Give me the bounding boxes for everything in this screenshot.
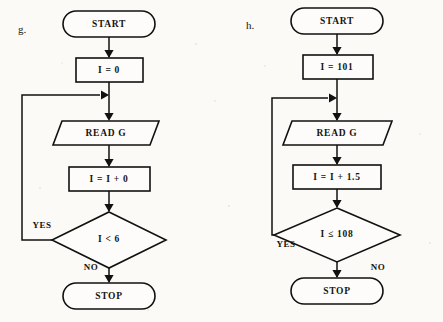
node-decision-g-label: I < 6 [98, 234, 120, 244]
node-init-g: I = 0 [76, 58, 143, 82]
edge-read-to-increment-g [104, 145, 113, 167]
node-increment-g-label: I = I + 0 [90, 174, 129, 184]
node-start-h-label: START [320, 16, 354, 26]
node-stop-g-label: STOP [95, 291, 122, 301]
edge-no-to-stop-g [104, 268, 113, 283]
chart-tag-h: h. [246, 19, 255, 31]
flowchart-canvas: g. START I = 0 [0, 0, 443, 322]
edge-start-to-init-g [104, 37, 113, 58]
edge-no-to-stop-h [332, 262, 341, 278]
node-increment-h: I = I + 1.5 [293, 165, 381, 189]
branch-label-no-h: NO [371, 262, 386, 272]
node-start-g-label: START [92, 19, 126, 29]
node-stop-g: STOP [63, 283, 155, 309]
node-init-h-label: I = 101 [320, 62, 353, 72]
node-init-g-label: I = 0 [98, 65, 120, 75]
node-decision-h: I ≤ 108 [274, 208, 400, 262]
node-start-g: START [63, 11, 155, 37]
node-read-h-label: READ G [317, 128, 358, 138]
node-decision-g: I < 6 [52, 212, 166, 268]
node-increment-g: I = I + 0 [69, 167, 150, 191]
edge-read-to-increment-h [332, 145, 341, 165]
branch-label-no-g: NO [84, 262, 99, 272]
edge-start-to-init-h [332, 34, 341, 55]
edge-increment-to-decision-h [332, 189, 341, 208]
edge-merge-to-read-h [332, 98, 341, 121]
edge-merge-to-read-g [104, 95, 113, 121]
node-read-g: READ G [53, 121, 159, 145]
flowchart-page: g. START I = 0 [0, 0, 443, 322]
node-init-h: I = 101 [303, 55, 373, 79]
edge-increment-to-decision-g [104, 191, 113, 212]
branch-label-yes-g: YES [32, 220, 51, 230]
node-start-h: START [291, 8, 383, 34]
node-increment-h-label: I = I + 1.5 [313, 172, 360, 182]
node-decision-h-label: I ≤ 108 [321, 229, 354, 239]
node-stop-h-label: STOP [323, 286, 350, 296]
node-read-g-label: READ G [86, 128, 127, 138]
flowchart-h: h. START I = 101 [246, 8, 400, 304]
chart-tag-g: g. [18, 23, 27, 35]
flowchart-g: g. START I = 0 [18, 11, 166, 309]
node-stop-h: STOP [291, 278, 383, 304]
node-read-h: READ G [283, 121, 392, 145]
branch-label-yes-h: YES [276, 239, 295, 249]
